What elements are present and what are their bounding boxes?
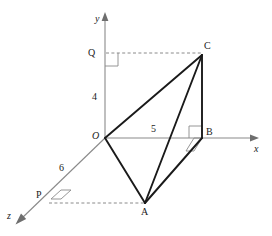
point-label-b: B xyxy=(206,127,213,137)
edge-a-to-b xyxy=(145,138,202,203)
point-label-c: C xyxy=(204,41,211,51)
z-axis-label: z xyxy=(7,211,11,221)
x-axis-arrowhead xyxy=(250,134,259,141)
y-axis-arrowhead xyxy=(102,12,109,21)
z-axis-line xyxy=(21,138,105,219)
geometry-figure: y x z O A B C P Q 4 5 6 xyxy=(0,0,272,236)
diagram-canvas xyxy=(0,0,272,236)
y-axis-label: y xyxy=(95,14,99,24)
right-angle-mark-b-upper xyxy=(189,126,202,138)
point-label-a: A xyxy=(141,207,148,217)
right-angle-mark-p xyxy=(51,190,71,199)
measure-label-op: 6 xyxy=(59,163,64,173)
point-label-q: Q xyxy=(88,48,95,58)
measure-label-ob: 5 xyxy=(151,124,156,134)
edge-o-to-a xyxy=(105,138,145,203)
point-label-o: O xyxy=(92,131,99,141)
point-label-p: P xyxy=(36,190,42,200)
right-angle-mark-q xyxy=(105,53,118,66)
measure-label-oq: 4 xyxy=(92,92,97,102)
x-axis-label: x xyxy=(254,144,258,154)
